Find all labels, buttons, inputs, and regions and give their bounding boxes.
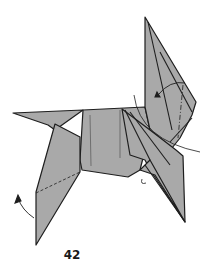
origami-diagram — [0, 0, 213, 273]
left-flap — [13, 110, 83, 130]
small-hook-arrow — [142, 179, 147, 184]
arrow-head-left-icon — [15, 195, 21, 203]
left-leg — [36, 124, 80, 245]
step-number: 42 — [60, 248, 84, 262]
head-ear — [145, 17, 196, 148]
